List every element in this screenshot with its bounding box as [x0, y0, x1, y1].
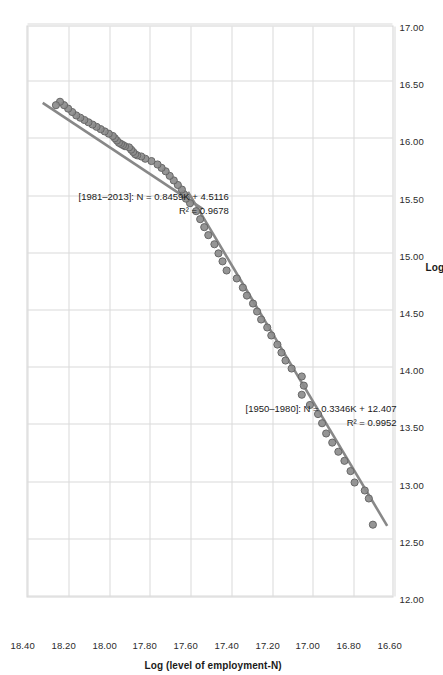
data-point: [346, 467, 353, 474]
data-point: [223, 266, 230, 273]
data-point: [204, 231, 211, 238]
data-point: [210, 240, 217, 247]
x-axis-tick-label: 14.00: [399, 364, 423, 375]
data-point: [253, 307, 260, 314]
x-axis-tick-label: 15.50: [399, 193, 423, 204]
y-axis-tick-label: 18.40: [10, 639, 34, 650]
y-axis-tick-label: 17.80: [132, 639, 156, 650]
x-axis-tick-label: 17.00: [399, 21, 423, 32]
data-point: [328, 439, 335, 446]
x-axis-tick-label: 15.00: [399, 250, 423, 261]
data-point: [369, 521, 376, 528]
data-point: [277, 348, 284, 355]
plot-area: [26, 25, 393, 597]
data-point: [298, 372, 305, 379]
data-point: [288, 364, 295, 371]
data-point: [243, 291, 250, 298]
data-point: [239, 283, 246, 290]
annotation-1950-1980-rsquared: R² = 0.9952: [245, 415, 396, 429]
data-point: [273, 340, 280, 347]
data-point: [218, 257, 225, 264]
data-point: [52, 101, 59, 108]
x-axis-tick-label: 16.00: [399, 135, 423, 146]
rotated-chart-canvas: 12.0012.5013.0013.5014.0014.5015.0015.50…: [0, 0, 443, 675]
gridline-horizontal: [394, 26, 395, 596]
data-point: [257, 315, 264, 322]
data-point: [233, 274, 240, 281]
x-axis-tick-label: 12.50: [399, 536, 423, 547]
x-axis-tick-label: 12.00: [399, 593, 423, 604]
data-point: [340, 457, 347, 464]
x-axis-title: Log (fixed capital stock-K): [425, 261, 443, 272]
data-point: [365, 494, 372, 501]
x-axis-tick-label: 13.50: [399, 421, 423, 432]
annotation-1950-1980-equation: [1950–1980]: N = 0.3346K + 12.407: [245, 401, 396, 415]
data-point: [361, 486, 368, 493]
y-axis-tick-label: 18.20: [51, 639, 75, 650]
y-axis-tick-label: 17.20: [255, 639, 279, 650]
y-axis-tick-label: 17.60: [173, 639, 197, 650]
data-point: [322, 429, 329, 436]
y-axis-tick-label: 18.00: [92, 639, 116, 650]
data-point: [200, 223, 207, 230]
data-point: [267, 331, 274, 338]
data-point: [249, 299, 256, 306]
y-axis-tick-label: 16.80: [336, 639, 360, 650]
data-point: [298, 391, 305, 398]
x-axis-tick-label: 13.00: [399, 479, 423, 490]
data-point: [281, 356, 288, 363]
x-axis-tick-label: 14.50: [399, 307, 423, 318]
annotation-1981-2013-equation: [1981–2013]: N = 0.8459K + 4.5116: [78, 189, 228, 203]
y-axis-tick-label: 17.00: [295, 639, 319, 650]
annotation-1981-2013-rsquared: R² = 0.9678: [78, 203, 228, 217]
data-point: [214, 249, 221, 256]
y-axis-tick-label: 16.60: [377, 639, 401, 650]
gridline-vertical: [27, 23, 392, 24]
data-point: [334, 448, 341, 455]
chart-figure: 12.0012.5013.0013.5014.0014.5015.0015.50…: [0, 0, 443, 675]
annotation-1950-1980: [1950–1980]: N = 0.3346K + 12.407 R² = 0…: [245, 401, 396, 429]
data-layer: [27, 26, 393, 596]
data-point: [351, 478, 358, 485]
data-point: [263, 323, 270, 330]
y-axis-title: Log (level of employment-N): [144, 659, 281, 670]
x-axis-tick-label: 16.50: [399, 78, 423, 89]
annotation-1981-2013: [1981–2013]: N = 0.8459K + 4.5116 R² = 0…: [78, 189, 228, 217]
y-axis-tick-label: 17.40: [214, 639, 238, 650]
